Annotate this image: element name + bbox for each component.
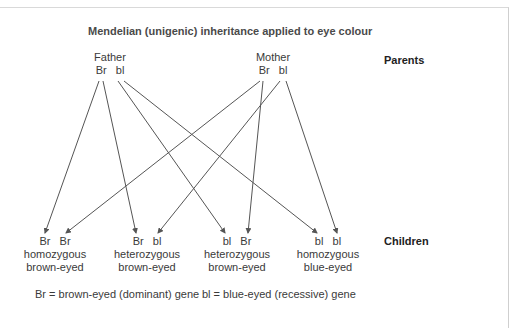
child-1-genes: Br Br [24, 235, 86, 248]
child-2: Br bl heterozygous brown-eyed [114, 235, 180, 274]
line-mother-bl-child2 [158, 81, 280, 233]
child-2-zygosity: heterozygous [114, 248, 180, 261]
legend-dominant: Br = brown-eyed (dominant) gene [35, 288, 199, 300]
line-father-bl-child3 [118, 81, 225, 233]
child-1-zygosity: homozygous [24, 248, 86, 261]
line-father-br-child1 [45, 81, 99, 233]
child-1: Br Br homozygous brown-eyed [24, 235, 86, 274]
child-1-phenotype: brown-eyed [24, 261, 86, 274]
child-3: bl Br heterozygous brown-eyed [204, 235, 270, 274]
child-2-genes: Br bl [114, 235, 180, 248]
line-father-bl-child4 [124, 81, 317, 233]
line-mother-br-child1 [66, 81, 260, 233]
line-mother-bl-child4 [286, 81, 337, 233]
line-father-br-child2 [103, 81, 136, 233]
child-4-zygosity: homozygous [297, 248, 359, 261]
line-mother-br-child3 [248, 81, 263, 233]
child-2-phenotype: brown-eyed [114, 261, 180, 274]
child-4-genes: bl bl [297, 235, 359, 248]
legend-recessive: bl = blue-eyed (recessive) gene [202, 288, 356, 300]
child-3-phenotype: brown-eyed [204, 261, 270, 274]
row-label-children: Children [384, 235, 429, 247]
child-4: bl bl homozygous blue-eyed [297, 235, 359, 274]
child-3-zygosity: heterozygous [204, 248, 270, 261]
child-4-phenotype: blue-eyed [297, 261, 359, 274]
child-3-genes: bl Br [204, 235, 270, 248]
